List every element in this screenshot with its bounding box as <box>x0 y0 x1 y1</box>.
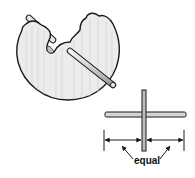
equal-label: equal <box>134 155 160 166</box>
leader-line-right <box>160 146 170 159</box>
detail-cross-group: equal <box>104 90 186 166</box>
workpiece-group <box>17 13 119 100</box>
leader-line-left <box>122 146 133 159</box>
vertical-dowel <box>142 90 146 151</box>
dowel-end <box>110 82 115 87</box>
diagram-figure: equal <box>0 0 195 178</box>
carved-notch <box>47 46 54 53</box>
